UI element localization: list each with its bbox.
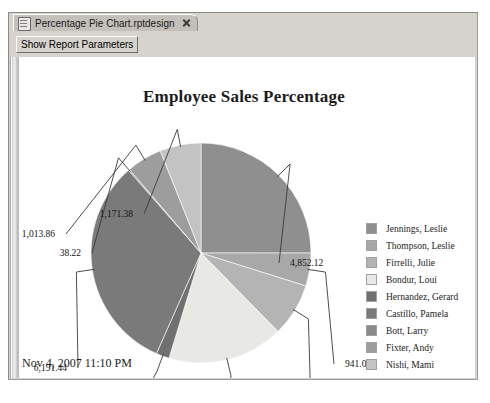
pie-data-label: 38.22 [60, 248, 82, 258]
pie-data-label: 1,171.38 [100, 209, 134, 219]
pie-data-label: 4,852.12 [290, 258, 324, 268]
legend-swatch [366, 359, 377, 370]
legend-item: Castillo, Pamela [366, 305, 458, 322]
legend-swatch [366, 240, 377, 251]
legend-label: Thompson, Leslie [386, 241, 455, 251]
legend-label: Castillo, Pamela [386, 309, 448, 319]
report-toolbar: Show Report Parameters [9, 33, 477, 57]
legend-item: Thompson, Leslie [366, 237, 458, 254]
legend-label: Bondur, Loui [386, 275, 437, 285]
legend-label: Nishi, Mami [386, 360, 434, 370]
report-editor-frame: Percentage Pie Chart.rptdesign Show Repo… [8, 12, 478, 380]
legend-label: Bott, Larry [386, 326, 428, 336]
tab-percentage-pie-chart[interactable]: Percentage Pie Chart.rptdesign [13, 14, 198, 32]
pie-leader-line [293, 310, 311, 380]
legend-swatch [366, 274, 377, 285]
legend-label: Firrelli, Julie [386, 258, 435, 268]
frame-bottom-strip [10, 378, 476, 379]
legend-item: Hernandez, Gerard [366, 288, 458, 305]
legend-swatch [366, 223, 377, 234]
editor-tab-strip: Percentage Pie Chart.rptdesign [9, 13, 477, 33]
pie-slice [201, 143, 311, 253]
legend-swatch [366, 325, 377, 336]
legend-swatch [366, 257, 377, 268]
legend-label: Jennings, Leslie [386, 224, 447, 234]
legend-swatch [366, 291, 377, 302]
legend-item: Nishi, Mami [366, 356, 458, 373]
report-timestamp: Nov 4, 2007 11:10 PM [22, 356, 132, 371]
legend-item: Fixter, Andy [366, 339, 458, 356]
close-icon[interactable] [181, 18, 192, 29]
legend-item: Bott, Larry [366, 322, 458, 339]
report-canvas: Employee Sales Percentage 4,852.12941.08… [10, 57, 477, 379]
pie-leader-line [308, 269, 334, 364]
legend-label: Hernandez, Gerard [386, 292, 458, 302]
legend-item: Firrelli, Julie [366, 254, 458, 271]
legend-item: Bondur, Loui [366, 271, 458, 288]
show-report-parameters-button[interactable]: Show Report Parameters [16, 36, 138, 53]
legend-swatch [366, 308, 377, 319]
legend-item: Jennings, Leslie [366, 220, 458, 237]
document-icon [18, 17, 31, 31]
chart-legend: Jennings, LeslieThompson, LeslieFirrelli… [366, 220, 458, 373]
pie-leader-line [227, 358, 231, 379]
pie-leader-line [76, 269, 94, 368]
legend-label: Fixter, Andy [386, 343, 434, 353]
legend-swatch [366, 342, 377, 353]
pie-data-label: 1,013.86 [22, 229, 56, 239]
canvas-right-edge [475, 57, 477, 379]
tab-label: Percentage Pie Chart.rptdesign [35, 18, 175, 29]
